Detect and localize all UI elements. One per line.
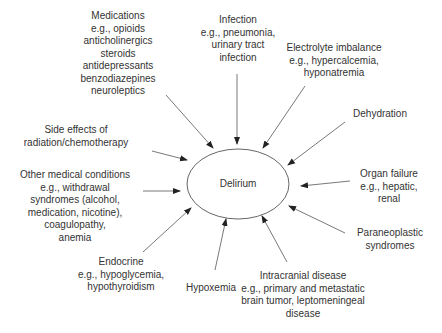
cause-title: Electrolyte imbalance: [282, 42, 386, 55]
cause-detail: e.g., pneumonia,: [197, 27, 279, 40]
arrow-endocrine: [143, 208, 191, 252]
arrow-medications: [166, 95, 213, 148]
delirium-label: Delirium: [200, 178, 276, 189]
cause-infection: Infection e.g., pneumonia, urinary tract…: [197, 14, 279, 64]
cause-title: Hypoxemia: [183, 282, 239, 295]
cause-detail: renal: [354, 193, 424, 206]
cause-detail: urinary tract: [197, 39, 279, 52]
cause-side-effects: Side effects of radiation/chemotherapy: [16, 124, 136, 149]
cause-dehydration: Dehydration: [348, 108, 412, 121]
cause-detail: hyponatremia: [282, 67, 386, 80]
arrow-electrolyte: [263, 86, 305, 148]
cause-detail: anemia: [14, 232, 136, 245]
cause-detail: steroids: [80, 48, 156, 61]
cause-detail: e.g., hypercalcemia,: [282, 55, 386, 68]
cause-organ-failure: Organ failure e.g., hepatic, renal: [354, 168, 424, 206]
arrow-dehydration: [288, 122, 345, 165]
arrow-intracranial: [262, 216, 287, 262]
cause-detail: e.g., primary and metastatic: [237, 283, 369, 296]
cause-intracranial: Intracranial disease e.g., primary and m…: [237, 270, 369, 320]
cause-detail: antidepressants: [80, 60, 156, 73]
cause-hypoxemia: Hypoxemia: [183, 282, 239, 295]
cause-detail: e.g., withdrawal: [14, 182, 136, 195]
cause-title: Endocrine: [74, 256, 168, 269]
cause-title: Infection: [197, 14, 279, 27]
cause-title: Other medical conditions: [14, 169, 136, 182]
cause-title: Paraneoplastic: [354, 227, 426, 240]
cause-medications: Medications e.g., opioids anticholinergi…: [80, 10, 156, 98]
cause-detail: syndromes (alcohol,: [14, 194, 136, 207]
cause-detail: anticholinergics: [80, 35, 156, 48]
cause-detail: syndromes: [354, 240, 426, 253]
cause-title: Organ failure: [354, 168, 424, 181]
arrow-hypoxemia: [215, 219, 226, 270]
cause-endocrine: Endocrine e.g., hypoglycemia, hypothyroi…: [74, 256, 168, 294]
cause-title: Side effects of: [16, 124, 136, 137]
cause-title: Dehydration: [348, 108, 412, 121]
cause-detail: disease: [237, 308, 369, 321]
cause-detail: radiation/chemotherapy: [16, 137, 136, 150]
cause-title: Medications: [80, 10, 156, 23]
cause-detail: e.g., hepatic,: [354, 181, 424, 194]
cause-detail: medication, nicotine),: [14, 207, 136, 220]
cause-detail: benzodiazepines: [80, 73, 156, 86]
cause-electrolyte: Electrolyte imbalance e.g., hypercalcemi…: [282, 42, 386, 80]
arrow-paraneoplastic: [289, 206, 345, 233]
cause-detail: coagulopathy,: [14, 219, 136, 232]
cause-detail: infection: [197, 52, 279, 65]
cause-detail: e.g., hypoglycemia,: [74, 269, 168, 282]
cause-title: Intracranial disease: [237, 270, 369, 283]
arrow-side-effects: [152, 151, 187, 160]
cause-paraneoplastic: Paraneoplastic syndromes: [354, 227, 426, 252]
arrow-organ-failure: [301, 181, 350, 186]
cause-detail: hypothyroidism: [74, 281, 168, 294]
cause-detail: brain tumor, leptomeningeal: [237, 295, 369, 308]
cause-detail: neuroleptics: [80, 85, 156, 98]
cause-other-medical: Other medical conditions e.g., withdrawa…: [14, 169, 136, 244]
cause-detail: e.g., opioids: [80, 23, 156, 36]
